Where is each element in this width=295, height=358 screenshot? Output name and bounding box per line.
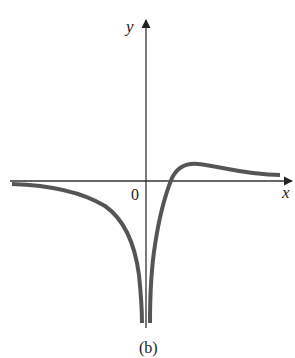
chart-canvas: y x 0 (b) — [0, 0, 295, 358]
curve-left-branch — [12, 184, 142, 323]
curve-right-branch — [150, 164, 280, 323]
origin-label: 0 — [131, 186, 139, 203]
figure-caption: (b) — [139, 339, 158, 357]
x-axis-label: x — [281, 183, 290, 202]
y-axis-label: y — [124, 17, 134, 36]
